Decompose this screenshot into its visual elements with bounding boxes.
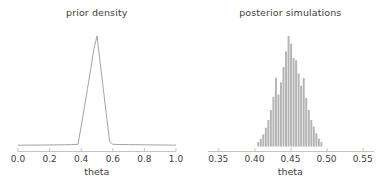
histogram-bar	[292, 58, 294, 146]
histogram-bar	[297, 74, 299, 147]
posterior-histogram-bars	[257, 36, 322, 147]
x-tick-label: 0.8	[137, 154, 151, 165]
histogram-bar	[320, 142, 322, 146]
x-tick-label: 0.50	[317, 154, 337, 165]
x-tick-label: 0.45	[280, 154, 300, 165]
histogram-bar	[262, 134, 264, 146]
histogram-bar	[310, 120, 312, 147]
prior-density-series	[18, 36, 176, 145]
prior-density-xaxis	[18, 148, 176, 152]
histogram-bar	[307, 110, 309, 146]
histogram-bar	[282, 67, 284, 147]
histogram-bar	[267, 120, 269, 147]
x-tick-label: 0.6	[106, 154, 120, 165]
histogram-bar	[269, 110, 271, 146]
histogram-bar	[312, 127, 314, 147]
histogram-bar	[257, 142, 259, 146]
x-tick-label: 1.0	[169, 154, 183, 165]
x-tick-label: 0.0	[11, 154, 25, 165]
x-axis-ticks	[18, 148, 176, 152]
histogram-bar	[300, 86, 302, 147]
posterior-simulations-xaxis	[208, 148, 374, 152]
histogram-bar	[259, 139, 261, 147]
posterior-simulations-xlabel: theta	[194, 166, 387, 177]
histogram-bar	[264, 128, 266, 147]
figure-panel-pair: prior density 0.00.20.40.60.81.0 theta p…	[0, 0, 387, 188]
histogram-bar	[305, 98, 307, 147]
prior-density-tick-labels: 0.00.20.40.60.81.0	[0, 154, 194, 166]
histogram-bar	[302, 78, 304, 147]
histogram-bar	[315, 133, 317, 146]
prior-density-line	[18, 36, 176, 145]
histogram-bar	[277, 95, 279, 147]
histogram-bar	[317, 139, 319, 147]
x-axis-ticks	[218, 148, 362, 152]
posterior-simulations-tick-labels: 0.350.400.450.500.55	[194, 154, 387, 166]
panel-posterior-simulations: posterior simulations 0.350.400.450.500.…	[194, 0, 387, 188]
prior-density-xlabel: theta	[0, 166, 194, 177]
histogram-bar	[285, 51, 287, 146]
x-tick-label: 0.40	[244, 154, 264, 165]
x-tick-label: 0.55	[353, 154, 373, 165]
x-tick-label: 0.35	[208, 154, 228, 165]
histogram-bar	[287, 36, 289, 147]
histogram-bar	[272, 97, 274, 147]
histogram-bar	[295, 60, 297, 146]
histogram-bar	[279, 82, 281, 146]
histogram-bar	[290, 44, 292, 147]
x-tick-label: 0.4	[74, 154, 88, 165]
x-tick-label: 0.2	[42, 154, 56, 165]
histogram-bar	[274, 78, 276, 147]
panel-prior-density: prior density 0.00.20.40.60.81.0 theta	[0, 0, 194, 188]
